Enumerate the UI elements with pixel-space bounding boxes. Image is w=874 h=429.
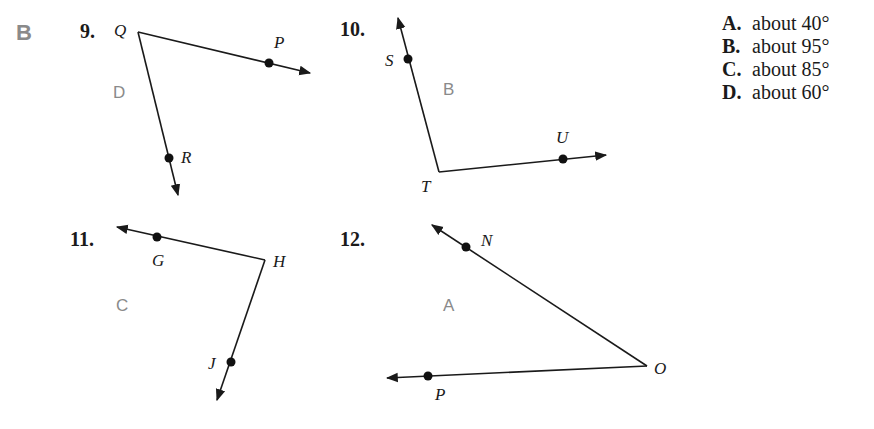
choice-text: about 95° [752, 35, 829, 58]
point-label: N [481, 231, 492, 251]
point-r [165, 154, 174, 163]
choice-c: C. about 85° [722, 58, 829, 81]
ray-ts [398, 18, 439, 172]
handwritten-answer: A [443, 296, 454, 316]
vertex-label: T [421, 177, 430, 197]
point-label: P [435, 385, 445, 405]
choice-b: B. about 95° [722, 35, 829, 58]
point-p [265, 59, 274, 68]
ray-tu [439, 155, 606, 172]
choice-text: about 60° [752, 81, 829, 104]
vertex-label: H [273, 252, 285, 272]
handwritten-answer: D [113, 83, 125, 103]
angle-nop [387, 225, 647, 381]
angle-ghj [117, 227, 265, 400]
problem-number: 10. [340, 18, 365, 41]
ray-hg [117, 227, 265, 260]
problem-number: 11. [70, 228, 94, 251]
point-label: J [208, 354, 216, 374]
ray-qr [138, 32, 178, 195]
point-label: P [274, 33, 284, 53]
choice-letter: B. [722, 35, 744, 58]
point-label: R [181, 148, 191, 168]
point-n [462, 243, 471, 252]
problem-number: 12. [340, 228, 365, 251]
choice-letter: C. [722, 58, 744, 81]
point-g [153, 233, 162, 242]
choice-text: about 85° [752, 58, 829, 81]
vertex-label: Q [114, 21, 126, 41]
choice-a: A. about 40° [722, 12, 829, 35]
choice-letter: D. [722, 81, 744, 104]
point-label: S [385, 51, 394, 71]
section-label: B [16, 20, 32, 46]
handwritten-answer: C [116, 296, 128, 316]
point-u [559, 155, 568, 164]
angle-stu [398, 18, 606, 172]
angle-pqr [138, 32, 310, 195]
vertex-label: O [654, 359, 666, 379]
problem-number: 9. [80, 20, 95, 43]
handwritten-answer: B [443, 80, 454, 100]
point-label: U [556, 128, 568, 148]
choice-letter: A. [722, 12, 744, 35]
ray-hj [217, 260, 265, 400]
choice-text: about 40° [752, 12, 829, 35]
answer-choices: A. about 40° B. about 95° C. about 85° D… [722, 12, 829, 104]
point-label: G [152, 251, 164, 271]
point-p2 [424, 372, 433, 381]
point-s [404, 55, 413, 64]
point-j [227, 358, 236, 367]
choice-d: D. about 60° [722, 81, 829, 104]
